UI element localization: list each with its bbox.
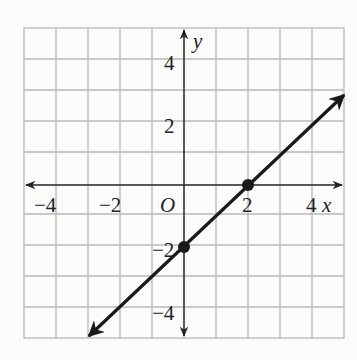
point-y-intercept: [178, 241, 190, 253]
point-x-intercept: [242, 179, 254, 191]
x-tick-label-2: 2: [242, 193, 253, 217]
y-tick-label-neg4: −4: [152, 301, 175, 325]
x-tick-label-neg2: −2: [99, 193, 121, 217]
y-tick-label-4: 4: [164, 51, 175, 75]
y-tick-label-2: 2: [164, 114, 175, 138]
origin-label: O: [160, 193, 175, 217]
x-tick-label-neg4: −4: [34, 193, 57, 217]
coordinate-plane: −4 −2 O 2 4 x 4 2 −2 −4 y: [0, 0, 357, 360]
x-tick-label-4: 4: [306, 193, 317, 217]
x-axis-label: x: [321, 193, 332, 217]
y-axis-label: y: [191, 29, 203, 53]
